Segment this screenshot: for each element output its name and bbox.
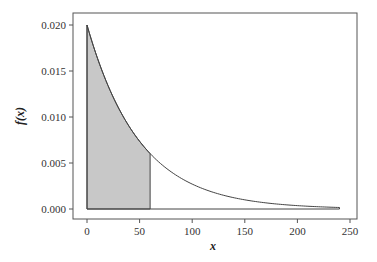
exponential-density-chart: 050100150200250 0.0000.0050.0100.0150.02…	[0, 0, 377, 262]
x-tick-label: 200	[289, 225, 306, 237]
y-tick-label: 0.000	[41, 203, 66, 215]
x-axis-label: x	[209, 239, 216, 253]
shaded-area	[87, 25, 150, 209]
y-tick-label: 0.015	[41, 65, 66, 77]
x-axis-ticks: 050100150200250	[84, 219, 359, 237]
y-tick-label: 0.005	[41, 157, 66, 169]
x-tick-label: 0	[84, 225, 90, 237]
x-tick-label: 100	[184, 225, 201, 237]
y-axis-ticks: 0.0000.0050.0100.0150.020	[41, 19, 73, 215]
y-tick-label: 0.020	[41, 19, 66, 31]
x-tick-label: 250	[342, 225, 359, 237]
y-axis-label: f(x)	[13, 107, 27, 125]
x-tick-label: 50	[134, 225, 146, 237]
x-tick-label: 150	[237, 225, 254, 237]
y-tick-label: 0.010	[41, 111, 66, 123]
